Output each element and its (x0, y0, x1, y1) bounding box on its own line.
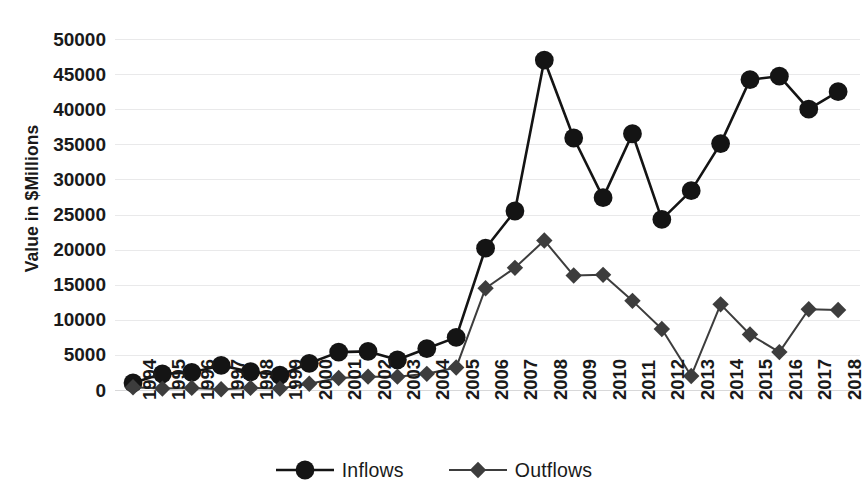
data-point-circle-marker (682, 181, 701, 200)
data-point-circle-marker (652, 210, 671, 229)
x-axis-tick-label: 2008 (552, 359, 571, 400)
data-point-circle-marker (829, 82, 848, 101)
x-axis-tick-label: 2003 (405, 359, 424, 400)
x-axis-tick-label: 2012 (669, 359, 688, 400)
x-axis-tick-label: 2006 (493, 359, 512, 400)
x-axis-tick-label: 2000 (317, 359, 336, 400)
x-axis-tick-label: 2011 (640, 360, 659, 400)
chart-legend: InflowsOutflows (0, 458, 867, 482)
line-chart: Value in $Millions 050001000015000200002… (0, 0, 867, 496)
data-point-circle-marker (711, 134, 730, 153)
legend-label: Inflows (342, 459, 404, 482)
data-point-circle-marker (741, 70, 760, 89)
data-point-diamond-marker (771, 344, 787, 360)
data-point-diamond-marker (830, 302, 846, 318)
x-axis-tick-label: 2004 (434, 359, 453, 400)
x-axis-tick-label: 2016 (787, 359, 806, 400)
x-axis-tick-label: 2018 (846, 359, 865, 400)
data-point-circle-marker (535, 51, 554, 70)
plot-area (0, 0, 867, 496)
x-axis-tick-label: 2017 (816, 359, 835, 400)
x-axis-tick-label: 1995 (170, 359, 189, 400)
data-point-circle-marker (476, 239, 495, 258)
data-point-circle-marker (623, 124, 642, 143)
data-point-circle-marker (417, 339, 436, 358)
data-point-circle-marker (594, 188, 613, 207)
x-axis-tick-label: 2013 (699, 359, 718, 400)
series-line-inflows (133, 60, 838, 383)
data-point-circle-marker (564, 129, 583, 148)
x-axis-tick-label: 2010 (611, 359, 630, 400)
x-axis-tick-label: 2014 (728, 359, 747, 400)
x-axis-tick-label: 2005 (464, 359, 483, 400)
x-axis-tick-label: 1996 (199, 359, 218, 400)
x-axis-tick-label: 1998 (258, 359, 277, 400)
data-point-diamond-marker (801, 301, 817, 317)
legend-item-outflows[interactable]: Outflows (448, 458, 592, 482)
x-axis-tick-label: 1994 (141, 359, 160, 400)
x-axis-tick-label: 1999 (287, 359, 306, 400)
x-axis-tick-label: 1997 (229, 359, 248, 400)
x-axis-tick-label: 2009 (581, 359, 600, 400)
data-point-diamond-marker (477, 280, 493, 296)
circle-marker-icon (275, 458, 335, 482)
x-axis-tick-label: 2007 (522, 359, 541, 400)
diamond-marker-icon (448, 458, 508, 482)
x-axis-tick-label: 2001 (346, 359, 365, 400)
x-axis-tick-label: 2015 (757, 359, 776, 400)
data-point-circle-marker (506, 202, 525, 221)
legend-item-inflows[interactable]: Inflows (275, 458, 404, 482)
data-point-circle-marker (447, 328, 466, 347)
data-point-circle-marker (770, 67, 789, 86)
legend-label: Outflows (515, 459, 592, 482)
data-point-circle-marker (799, 100, 818, 119)
x-axis-tick-label: 2002 (376, 359, 395, 400)
